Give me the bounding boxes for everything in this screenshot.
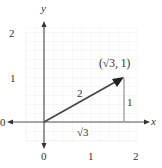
negative-y-arrow-icon <box>42 143 47 149</box>
y-axis-label: y <box>40 2 46 14</box>
x-axis-arrow-icon <box>144 120 150 125</box>
x-tick-2: 2 <box>133 150 139 162</box>
y-axis-arrow-icon <box>42 21 47 27</box>
magnitude-label: 2 <box>77 87 83 99</box>
point-label: (√3, 1) <box>99 57 130 70</box>
x-tick-1: 1 <box>88 150 94 162</box>
coordinate-diagram: y x 2 1 0 0 1 2 (√3, 1) 2 1 √3 <box>0 0 162 168</box>
y-tick-1: 1 <box>10 72 16 84</box>
y-tick-2: 2 <box>9 27 15 39</box>
vertical-leg-label: 1 <box>127 96 133 108</box>
negative-x-arrow-icon <box>7 120 13 125</box>
x-tick-0: 0 <box>41 150 47 162</box>
horizontal-leg-label: √3 <box>77 126 89 138</box>
grid <box>26 28 137 141</box>
x-axis-label: x <box>150 115 156 127</box>
left-arrow-label: 0 <box>0 116 6 128</box>
